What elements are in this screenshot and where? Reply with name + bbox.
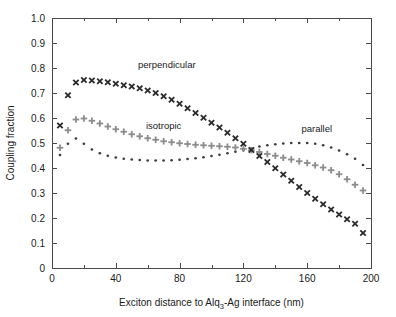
data-point bbox=[233, 136, 238, 141]
data-point bbox=[121, 83, 126, 88]
data-point bbox=[152, 136, 159, 143]
data-point bbox=[106, 154, 109, 157]
data-point bbox=[144, 135, 151, 142]
data-point bbox=[338, 149, 341, 152]
data-point bbox=[176, 140, 183, 147]
data-point bbox=[298, 142, 301, 145]
x-tick-label-80: 80 bbox=[174, 273, 186, 284]
data-point bbox=[282, 142, 285, 145]
y-tick-label-0.2: 0.2 bbox=[31, 213, 45, 224]
series-annotation-layer: perpendicularisotropicparallel bbox=[138, 59, 332, 134]
data-point bbox=[288, 156, 295, 163]
data-point bbox=[232, 144, 239, 151]
data-point bbox=[274, 143, 277, 146]
x-tick-label-120: 120 bbox=[235, 273, 252, 284]
data-point bbox=[328, 207, 333, 212]
data-point bbox=[130, 158, 133, 161]
data-point bbox=[314, 142, 317, 145]
y-tick-label-0: 0 bbox=[39, 263, 45, 274]
data-point bbox=[217, 125, 222, 130]
data-point bbox=[224, 143, 231, 150]
data-point bbox=[306, 142, 309, 145]
x-axis-title: Exciton distance to Alq3-Ag interface (n… bbox=[119, 297, 304, 311]
data-point bbox=[122, 157, 125, 160]
data-point bbox=[168, 139, 175, 146]
x-tick-label-160: 160 bbox=[299, 273, 316, 284]
data-point bbox=[320, 164, 327, 171]
data-point bbox=[266, 144, 269, 147]
data-point bbox=[145, 88, 150, 93]
data-point bbox=[170, 159, 173, 162]
chart-figure: 04080120160200 00.10.20.30.40.50.60.70.8… bbox=[0, 0, 396, 317]
data-point bbox=[75, 137, 78, 140]
y-tick-label-0.5: 0.5 bbox=[31, 138, 45, 149]
data-point bbox=[344, 176, 351, 183]
data-point bbox=[264, 151, 271, 158]
data-point bbox=[312, 162, 319, 169]
data-point bbox=[128, 131, 135, 138]
data-point bbox=[296, 158, 303, 165]
data-point bbox=[113, 126, 120, 133]
data-point bbox=[322, 144, 325, 147]
data-point bbox=[328, 167, 335, 174]
y-tick-label-0.6: 0.6 bbox=[31, 113, 45, 124]
y-tick-label-0.1: 0.1 bbox=[31, 238, 45, 249]
data-series-layer bbox=[57, 77, 367, 235]
data-point bbox=[73, 116, 80, 123]
data-point bbox=[89, 117, 96, 124]
data-point bbox=[273, 166, 278, 171]
y-axis-title: Coupling fraction bbox=[5, 105, 16, 180]
data-point bbox=[57, 123, 62, 128]
data-point bbox=[360, 187, 367, 194]
x-axis-tick-labels: 04080120160200 bbox=[49, 273, 380, 284]
data-point bbox=[362, 164, 365, 167]
data-point bbox=[330, 146, 333, 149]
y-tick-label-1.0: 1.0 bbox=[31, 13, 45, 24]
data-point bbox=[290, 142, 293, 145]
data-point bbox=[312, 196, 317, 201]
data-point bbox=[210, 155, 213, 158]
data-point bbox=[320, 202, 325, 207]
y-tick-label-0.8: 0.8 bbox=[31, 63, 45, 74]
data-point bbox=[136, 133, 143, 140]
data-point bbox=[154, 159, 157, 162]
data-point bbox=[153, 90, 158, 95]
data-point bbox=[105, 80, 110, 85]
data-point bbox=[346, 153, 349, 156]
data-point bbox=[289, 178, 294, 183]
data-point bbox=[129, 84, 134, 89]
data-point bbox=[137, 86, 142, 91]
data-point bbox=[201, 115, 206, 120]
data-point bbox=[234, 150, 237, 153]
data-point bbox=[281, 172, 286, 177]
data-point bbox=[97, 79, 102, 84]
data-point bbox=[169, 97, 174, 102]
data-point bbox=[336, 171, 343, 178]
data-point bbox=[161, 94, 166, 99]
y-axis-tick-labels: 00.10.20.30.40.50.60.70.80.91.0 bbox=[31, 13, 45, 274]
data-point bbox=[304, 160, 311, 167]
data-point bbox=[160, 138, 167, 145]
series-label-parallel: parallel bbox=[301, 123, 332, 134]
data-point bbox=[97, 120, 104, 127]
data-point bbox=[336, 212, 341, 217]
data-point bbox=[114, 156, 117, 159]
x-tick-label-200: 200 bbox=[363, 273, 380, 284]
data-point bbox=[280, 154, 287, 161]
series-label-isotropic: isotropic bbox=[146, 120, 182, 131]
y-tick-label-0.9: 0.9 bbox=[31, 38, 45, 49]
data-point bbox=[113, 81, 118, 86]
series-label-perpendicular: perpendicular bbox=[138, 59, 196, 70]
data-point bbox=[57, 144, 64, 151]
data-point bbox=[194, 157, 197, 160]
data-point bbox=[265, 159, 270, 164]
data-point bbox=[81, 115, 88, 122]
series-parallel bbox=[59, 137, 365, 166]
data-point bbox=[218, 153, 221, 156]
data-point bbox=[272, 152, 279, 159]
data-point bbox=[352, 181, 359, 188]
data-point bbox=[65, 93, 70, 98]
data-point bbox=[146, 159, 149, 162]
data-point bbox=[67, 142, 70, 145]
data-point bbox=[216, 143, 223, 150]
